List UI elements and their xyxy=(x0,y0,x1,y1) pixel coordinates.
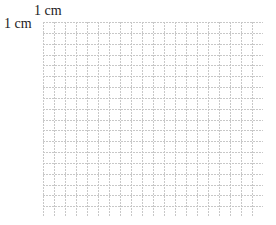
grid-lines xyxy=(43,22,263,217)
scale-label-vertical: 1 cm xyxy=(4,17,32,31)
scale-label-horizontal: 1 cm xyxy=(34,4,62,18)
cm-grid xyxy=(43,22,263,217)
